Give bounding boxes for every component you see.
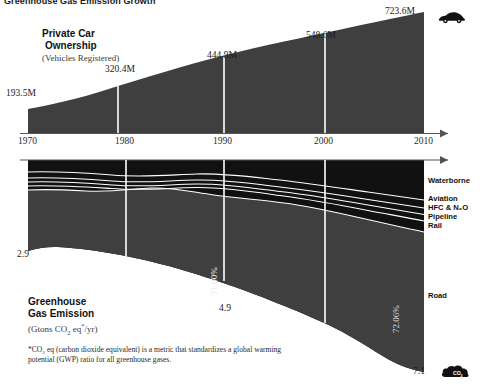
infographic-canvas: Greenhouse Gas Emission Growth <box>0 0 485 392</box>
series-label-waterborne: Waterborne <box>428 177 470 186</box>
lower-subtitle-suffix: /yr) <box>84 324 97 334</box>
upper-value-1980: 320.4M <box>105 64 135 74</box>
upper-title-line2: Ownership <box>45 40 119 52</box>
upper-subtitle: (Vehicles Registered) <box>42 52 119 64</box>
co2-cloud-icon: CO 2 <box>442 366 469 378</box>
upper-value-1990: 444.9M <box>207 50 237 60</box>
footnote: *CO₂ eq (carbon dioxide equivalent) is a… <box>28 345 288 365</box>
road-share-1990: 71.00% <box>209 267 219 295</box>
axis-year-1980: 1980 <box>115 136 134 146</box>
axis-year-1990: 1990 <box>213 136 232 146</box>
svg-text:2: 2 <box>460 374 462 378</box>
axis-year-2010: 2010 <box>414 136 433 146</box>
upper-value-2010: 723.6M <box>385 6 415 16</box>
series-label-rail: Rail <box>428 222 442 231</box>
road-share-2010: 72.06% <box>391 305 401 333</box>
car-icon <box>439 12 465 23</box>
lower-subtitle-mid: eq <box>71 324 82 334</box>
lower-value-mid: 4.9 <box>219 303 231 313</box>
lower-title-line1: Greenhouse <box>28 296 97 308</box>
upper-chart-title: Private Car Ownership (Vehicles Register… <box>42 28 119 64</box>
axis-year-2000: 2000 <box>314 136 333 146</box>
axis-year-1970: 1970 <box>18 136 37 146</box>
lower-chart-area <box>20 156 448 372</box>
lower-value-end: 7.1 <box>413 366 425 376</box>
lower-chart-title: Greenhouse Gas Emission (Gtons CO2 eq*/y… <box>28 296 97 339</box>
series-label-road: Road <box>428 292 447 301</box>
lower-value-start: 2.9 <box>17 249 29 259</box>
lower-subtitle-prefix: (Gtons CO <box>28 324 67 334</box>
lower-subtitle: (Gtons CO2 eq*/yr) <box>28 320 97 339</box>
upper-axis-arrow <box>440 130 448 138</box>
upper-value-1970: 193.5M <box>6 88 36 98</box>
upper-title-line1: Private Car <box>42 28 119 40</box>
lower-title-line2: Gas Emission <box>28 308 97 320</box>
lower-axis-arrow <box>440 156 448 164</box>
upper-value-2000: 548.6M <box>306 30 336 40</box>
